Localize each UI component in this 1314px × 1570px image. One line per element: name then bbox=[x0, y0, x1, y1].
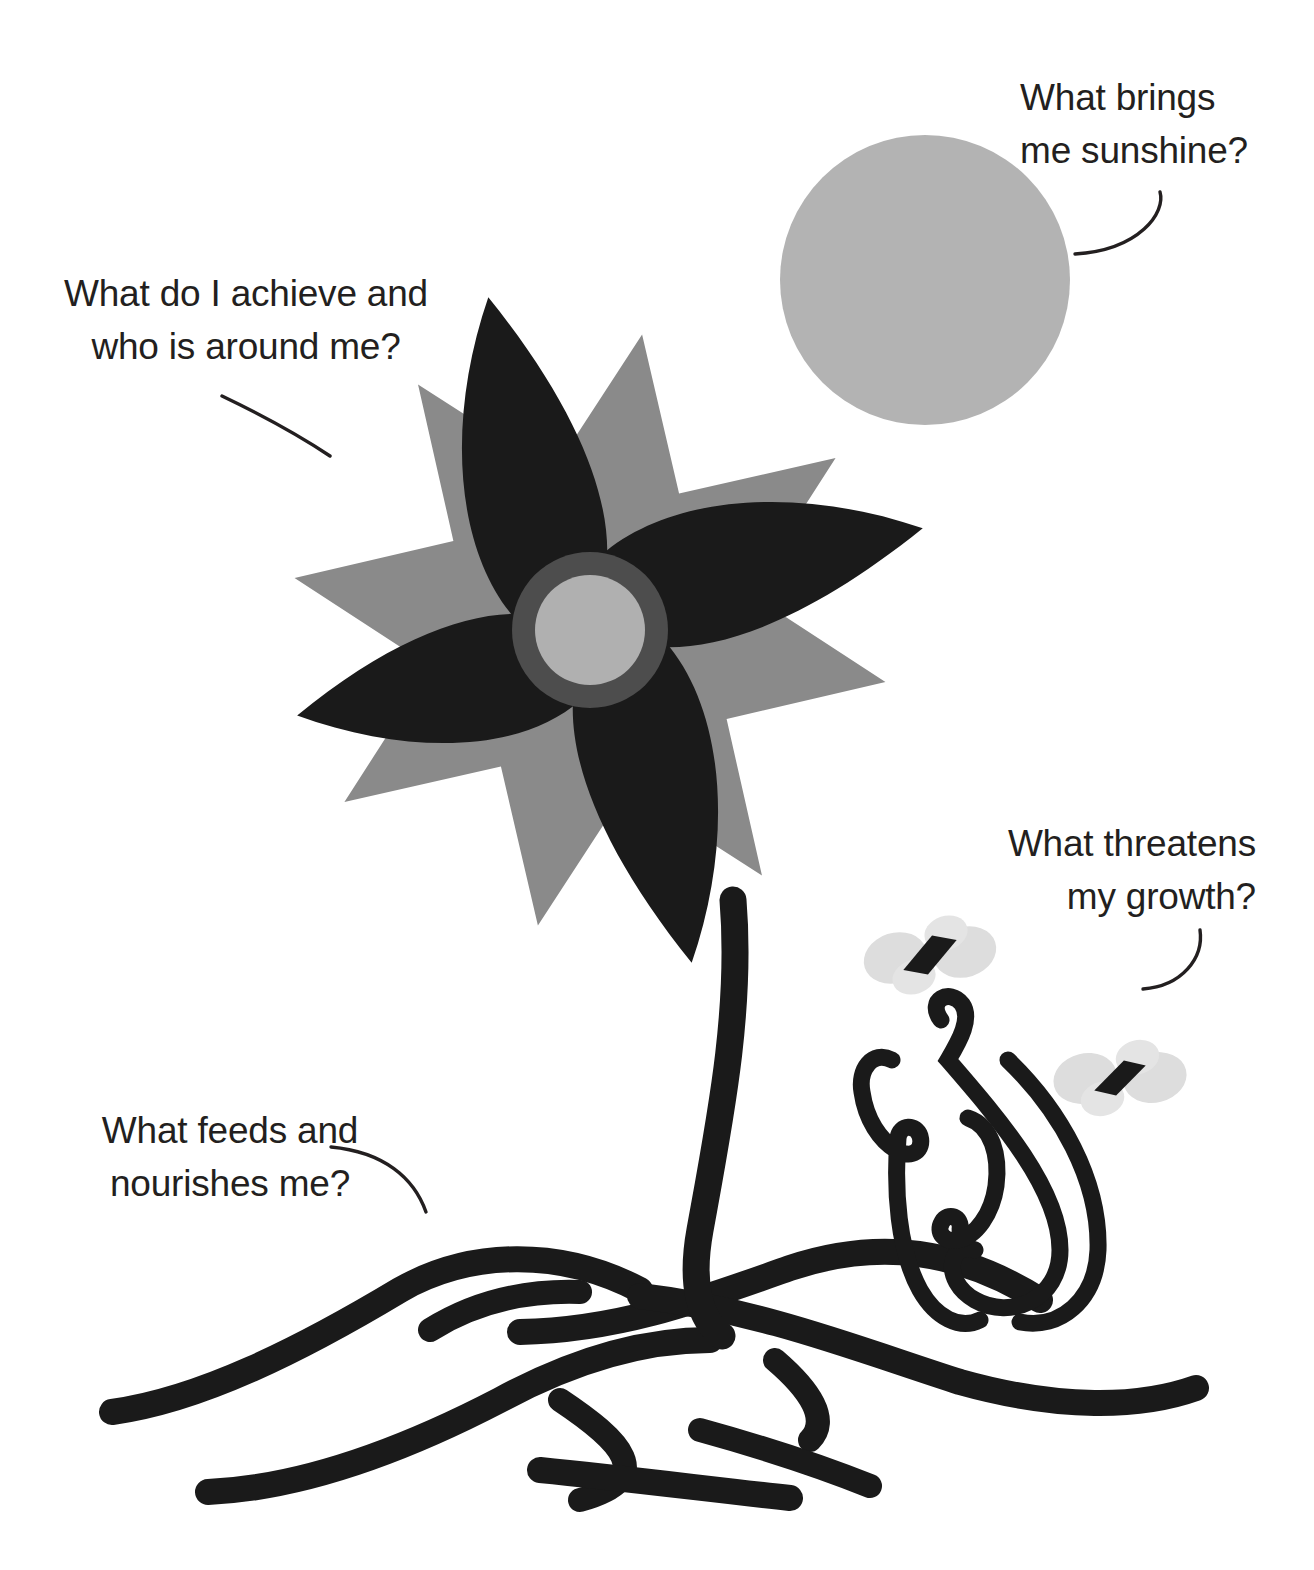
pointer-line-threat bbox=[1143, 930, 1200, 989]
pointer-line-achieve bbox=[222, 396, 330, 456]
butterfly-pest bbox=[857, 903, 1003, 1007]
flower-stem bbox=[696, 900, 735, 1336]
question-label-threat: What threatens my growth? bbox=[1008, 818, 1256, 923]
butterfly-pest bbox=[1048, 1030, 1192, 1126]
worksheet-canvas: What brings me sunshine? What do I achie… bbox=[0, 0, 1314, 1570]
flower-illustration bbox=[0, 0, 1314, 1570]
flower-center-disc bbox=[535, 575, 645, 685]
question-label-feeds: What feeds and nourishes me? bbox=[70, 1105, 390, 1210]
sun-icon bbox=[780, 135, 1070, 425]
pointer-line-sunshine bbox=[1075, 192, 1161, 254]
root-branch bbox=[640, 1296, 1196, 1403]
question-label-achieve: What do I achieve and who is around me? bbox=[62, 268, 430, 373]
root-system bbox=[112, 1252, 1196, 1500]
weed-tendril bbox=[940, 1118, 997, 1241]
root-branch bbox=[775, 1360, 818, 1440]
question-label-sunshine: What brings me sunshine? bbox=[1020, 72, 1248, 177]
